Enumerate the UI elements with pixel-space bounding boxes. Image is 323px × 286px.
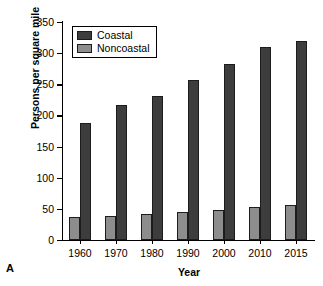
bar-group: 2015 bbox=[278, 22, 314, 240]
legend-label-noncoastal: Noncoastal bbox=[97, 43, 150, 54]
x-tick-mark bbox=[224, 240, 225, 244]
x-tick-mark bbox=[296, 240, 297, 244]
x-tick-label: 2010 bbox=[248, 247, 271, 259]
y-tick-label: 200 bbox=[36, 109, 54, 121]
x-tick-label: 1980 bbox=[140, 247, 163, 259]
y-tick-label: 50 bbox=[42, 203, 54, 215]
bar-noncoastal-1990 bbox=[177, 212, 188, 240]
bar-noncoastal-1970 bbox=[105, 216, 116, 240]
bar-coastal-1980 bbox=[152, 96, 163, 241]
y-tick-label: 150 bbox=[36, 141, 54, 153]
x-tick-label: 1970 bbox=[104, 247, 127, 259]
y-tick-label: 300 bbox=[36, 47, 54, 59]
x-tick-label: 2015 bbox=[284, 247, 307, 259]
x-tick-label: 1960 bbox=[68, 247, 91, 259]
bar-coastal-2015 bbox=[296, 41, 307, 240]
legend-item-coastal: Coastal bbox=[77, 30, 150, 41]
x-tick-mark bbox=[152, 240, 153, 244]
chart-legend: Coastal Noncoastal bbox=[72, 26, 157, 58]
legend-item-noncoastal: Noncoastal bbox=[77, 43, 150, 54]
bar-coastal-1970 bbox=[116, 105, 127, 240]
bar-coastal-2000 bbox=[224, 64, 235, 240]
y-tick-label: 100 bbox=[36, 172, 54, 184]
x-tick-label: 2000 bbox=[212, 247, 235, 259]
x-tick-label: 1990 bbox=[176, 247, 199, 259]
bar-noncoastal-1960 bbox=[69, 217, 80, 240]
bar-noncoastal-2000 bbox=[213, 210, 224, 240]
legend-label-coastal: Coastal bbox=[97, 30, 133, 41]
legend-swatch-noncoastal bbox=[77, 44, 92, 53]
bar-coastal-2010 bbox=[260, 47, 271, 240]
x-tick-mark bbox=[188, 240, 189, 244]
legend-swatch-coastal bbox=[77, 31, 92, 40]
bar-coastal-1960 bbox=[80, 123, 91, 240]
y-tick-mark bbox=[57, 240, 62, 241]
y-tick-label: 250 bbox=[36, 78, 54, 90]
bar-coastal-1990 bbox=[188, 80, 199, 240]
x-tick-mark bbox=[260, 240, 261, 244]
y-tick-label: 0 bbox=[48, 234, 54, 246]
bar-noncoastal-1980 bbox=[141, 214, 152, 240]
bar-group: 1990 bbox=[170, 22, 206, 240]
bar-noncoastal-2010 bbox=[249, 207, 260, 240]
x-axis-title: Year bbox=[60, 266, 318, 278]
panel-label: A bbox=[6, 262, 14, 274]
chart-figure: Persons per square mile Year A 050100150… bbox=[0, 0, 323, 286]
bar-noncoastal-2015 bbox=[285, 205, 296, 241]
bar-group: 2000 bbox=[206, 22, 242, 240]
y-tick-label: 350 bbox=[36, 16, 54, 28]
x-tick-mark bbox=[80, 240, 81, 244]
x-tick-mark bbox=[116, 240, 117, 244]
bar-group: 2010 bbox=[242, 22, 278, 240]
